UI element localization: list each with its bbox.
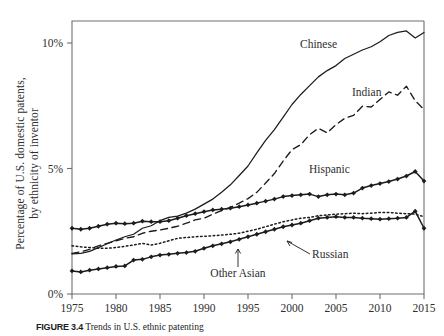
series-marker <box>290 223 295 228</box>
series-marker <box>263 199 268 204</box>
series-marker <box>316 194 321 199</box>
x-tick-label: 2005 <box>325 302 348 314</box>
line-chart: 0%5%10% 19751980198519901995200020052010… <box>0 0 444 336</box>
series-marker <box>149 254 154 259</box>
x-tick-label: 2015 <box>413 302 436 314</box>
series-marker <box>114 221 119 226</box>
series-marker <box>395 216 400 221</box>
series-marker <box>228 239 233 244</box>
series-marker <box>254 201 259 206</box>
series-marker <box>114 264 119 269</box>
y-tick-label: 0% <box>48 288 64 300</box>
series-marker <box>378 181 383 186</box>
series-marker <box>70 269 75 274</box>
series-marker <box>272 197 277 202</box>
figure-caption: FIGURE 3.4 Trends in U.S. ethnic patenti… <box>36 322 204 332</box>
series-marker <box>131 221 136 226</box>
series-marker <box>342 215 347 220</box>
series-marker <box>237 204 242 209</box>
series-marker <box>210 243 215 248</box>
axis-spines <box>72 21 424 294</box>
x-tick-label: 2010 <box>369 302 392 314</box>
series-marker <box>298 192 303 197</box>
series-marker <box>254 232 259 237</box>
series-marker <box>307 218 312 223</box>
x-tick-label: 1995 <box>237 302 260 314</box>
series-marker <box>237 237 242 242</box>
x-tick-group: 197519801985199019952000200520102015 <box>61 294 436 314</box>
series-marker <box>325 192 330 197</box>
series-annotation-indian: Indian <box>352 86 382 98</box>
series-marker <box>351 215 356 220</box>
series-marker <box>78 270 83 275</box>
series-marker <box>96 266 101 271</box>
russian-leader <box>287 241 310 254</box>
series-marker <box>386 216 391 221</box>
series-marker <box>342 192 347 197</box>
annotation-group: ChineseIndianHispanicRussianOther Asian <box>210 38 381 279</box>
x-tick-label: 1985 <box>149 302 172 314</box>
series-marker <box>149 219 154 224</box>
caption-text: Trends in U.S. ethnic patenting <box>85 322 203 332</box>
series-marker <box>369 216 374 221</box>
series-marker <box>105 222 110 227</box>
series-annotation-russian: Russian <box>312 248 349 260</box>
y-tick-group: 0%5%10% <box>42 37 72 300</box>
series-marker <box>378 217 383 222</box>
series-marker <box>246 202 251 207</box>
figure-container: Percentage of U.S. domestic patents, by … <box>0 0 444 336</box>
series-marker <box>158 253 163 258</box>
y-tick-label: 5% <box>48 163 64 175</box>
series-marker <box>96 224 101 229</box>
series-marker <box>166 252 171 257</box>
series-marker <box>281 224 286 229</box>
series-marker <box>219 241 224 246</box>
x-tick-label: 1975 <box>61 302 84 314</box>
series-marker <box>175 251 180 256</box>
x-tick-label: 1980 <box>105 302 128 314</box>
series-marker <box>78 227 83 232</box>
series-marker <box>87 226 92 231</box>
series-marker <box>87 268 92 273</box>
series-marker <box>290 193 295 198</box>
series-marker <box>105 265 110 270</box>
series-annotation-chinese: Chinese <box>300 38 337 50</box>
series-line-indian <box>72 86 424 253</box>
series-marker <box>263 229 268 234</box>
series-marker <box>140 219 145 224</box>
series-marker <box>193 249 198 254</box>
x-tick-label: 1990 <box>193 302 216 314</box>
caption-number: FIGURE 3.4 <box>36 322 83 332</box>
series-marker <box>246 234 251 239</box>
series-group <box>70 31 427 274</box>
series-marker <box>166 218 171 223</box>
series-marker <box>281 194 286 199</box>
series-marker <box>307 192 312 197</box>
series-marker <box>202 246 207 251</box>
series-marker <box>272 227 277 232</box>
plot-frame <box>72 21 424 294</box>
series-annotation-hispanic: Hispanic <box>309 163 350 176</box>
series-marker <box>395 177 400 182</box>
series-marker <box>184 250 189 255</box>
series-marker <box>122 221 127 226</box>
series-marker <box>210 208 215 213</box>
series-marker <box>386 179 391 184</box>
series-marker <box>193 211 198 216</box>
x-tick-label: 2000 <box>281 302 304 314</box>
series-marker <box>70 226 75 231</box>
series-marker <box>360 216 365 221</box>
y-tick-label: 10% <box>42 37 64 49</box>
series-marker <box>202 209 207 214</box>
series-marker <box>369 183 374 188</box>
series-marker <box>298 221 303 226</box>
series-marker <box>334 192 339 197</box>
series-marker <box>140 257 145 262</box>
series-annotation-other-asian: Other Asian <box>210 267 266 279</box>
